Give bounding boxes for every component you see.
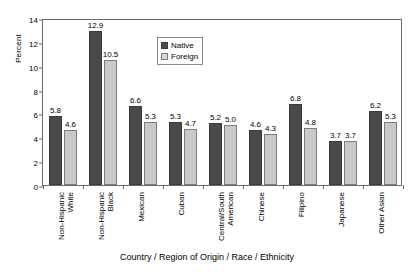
- y-axis-tick-mark: [39, 67, 43, 68]
- legend-item-native: Native: [161, 40, 198, 51]
- bar-value-label-foreign: 5.3: [145, 112, 156, 121]
- bar-value-label-foreign: 4.8: [305, 118, 316, 127]
- y-axis-title: Percent: [14, 9, 23, 89]
- bar-value-label-native: 6.6: [130, 96, 141, 105]
- legend-item-foreign: Foreign: [161, 51, 198, 62]
- bar-foreign: [64, 130, 77, 185]
- bar-value-label-native: 4.6: [250, 120, 261, 129]
- bar-native: [49, 116, 62, 185]
- x-axis-category-label: Non-HispanicBlack: [97, 192, 115, 240]
- x-axis-tick-mark: [323, 185, 324, 189]
- bar-value-label-foreign: 5.0: [225, 115, 236, 124]
- bar-value-label-native: 5.2: [210, 113, 221, 122]
- x-axis-category-label: Mexican: [137, 192, 146, 222]
- bar-native: [369, 111, 382, 185]
- bar-native: [89, 31, 102, 185]
- x-axis-tick-mark: [283, 185, 284, 189]
- bar-foreign: [384, 122, 397, 185]
- x-axis-category-label: Chinese: [257, 192, 266, 221]
- x-axis-category-label: Central/SouthAmerican: [217, 192, 235, 241]
- x-axis-tick-mark: [123, 185, 124, 189]
- y-axis-tick-mark: [39, 20, 43, 21]
- bar-value-label-foreign: 4.3: [265, 124, 276, 133]
- x-axis-tick-mark: [203, 185, 204, 189]
- bar-value-label-native: 6.2: [370, 101, 381, 110]
- y-axis-tick-mark: [39, 115, 43, 116]
- chart-legend: Native Foreign: [157, 37, 203, 65]
- x-axis-tick-mark: [363, 185, 364, 189]
- bar-foreign: [264, 134, 277, 185]
- y-axis-tick-mark: [39, 163, 43, 164]
- x-axis-tick-mark: [163, 185, 164, 189]
- bar-foreign: [104, 60, 117, 185]
- x-axis-category-label: Non-HispanicWhite: [57, 192, 75, 240]
- bar-native: [249, 130, 262, 185]
- bar-value-label-foreign: 4.6: [65, 120, 76, 129]
- bar-native: [329, 141, 342, 185]
- x-axis-tick-mark: [243, 185, 244, 189]
- bar-foreign: [184, 129, 197, 185]
- bar-foreign: [344, 141, 357, 185]
- bar-chart-figure: 02468101214 5.84.612.910.56.65.35.34.75.…: [0, 0, 414, 272]
- bar-value-label-native: 12.9: [88, 21, 104, 30]
- bar-value-label-native: 6.8: [290, 94, 301, 103]
- x-axis-tick-mark: [43, 185, 44, 189]
- y-axis-tick-mark: [39, 139, 43, 140]
- bar-foreign: [144, 122, 157, 185]
- x-axis-category-label: Filipino: [297, 192, 306, 217]
- bar-value-label-foreign: 10.5: [103, 50, 119, 59]
- bar-value-label-native: 5.8: [50, 106, 61, 115]
- y-axis-tick-mark: [39, 91, 43, 92]
- legend-label-native: Native: [171, 42, 194, 50]
- x-axis-category-label: Cuban: [177, 192, 186, 216]
- x-axis-title: Country / Region of Origin / Race / Ethn…: [0, 252, 414, 262]
- bar-native: [289, 104, 302, 185]
- bar-native: [169, 122, 182, 185]
- bar-foreign: [304, 128, 317, 185]
- plot-area: 02468101214 5.84.612.910.56.65.35.34.75.…: [42, 19, 402, 186]
- bar-value-label-native: 3.7: [330, 131, 341, 140]
- legend-label-foreign: Foreign: [171, 53, 198, 61]
- bar-value-label-foreign: 5.3: [385, 112, 396, 121]
- x-axis-tick-mark: [83, 185, 84, 189]
- bar-value-label-native: 5.3: [170, 112, 181, 121]
- bar-native: [209, 123, 222, 185]
- bar-value-label-foreign: 4.7: [185, 119, 196, 128]
- bar-value-label-foreign: 3.7: [345, 131, 356, 140]
- x-axis-tick-mark: [403, 185, 404, 189]
- y-axis-tick-mark: [39, 43, 43, 44]
- legend-swatch-native-icon: [161, 42, 168, 49]
- x-axis-category-label: Other Asian: [377, 192, 386, 234]
- x-axis-category-label: Japanese: [337, 192, 346, 227]
- bar-foreign: [224, 125, 237, 185]
- bar-native: [129, 106, 142, 185]
- legend-swatch-foreign-icon: [161, 53, 168, 60]
